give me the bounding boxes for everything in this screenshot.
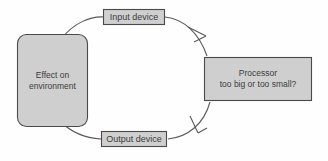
node-processor[interactable]	[205, 58, 312, 101]
node-input-device[interactable]	[104, 10, 165, 25]
edge-input-to-processor	[165, 17, 207, 56]
diagram-graphics	[0, 0, 328, 161]
node-effect-on-environment[interactable]	[18, 35, 88, 127]
diagram-canvas: Effect on environment Input device Proce…	[0, 0, 328, 161]
edge-processor-to-output	[168, 102, 210, 139]
node-output-device[interactable]	[102, 132, 167, 147]
